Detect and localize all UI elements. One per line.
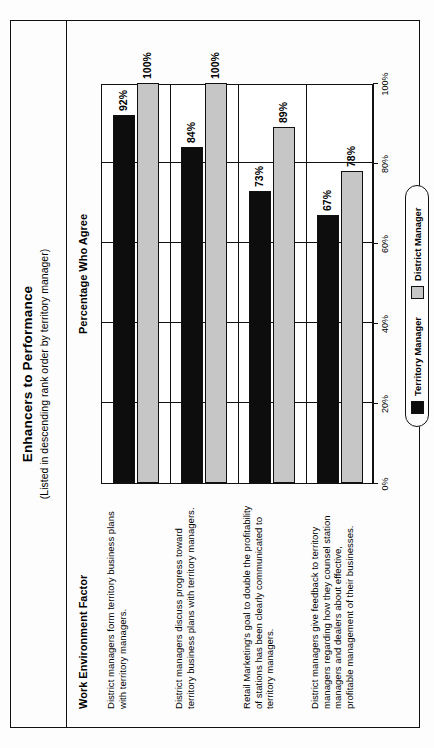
legend-swatch-icon bbox=[411, 401, 424, 414]
category-label-column: District managers form territory busines… bbox=[97, 497, 419, 709]
rotated-artwork: Enhancers to Performance (Listed in desc… bbox=[0, 0, 434, 748]
bar-value-label: 78% bbox=[346, 146, 357, 167]
bar-value-label: 100% bbox=[210, 52, 221, 79]
axis-tick-label: 100% bbox=[380, 72, 390, 95]
page-title: Enhancers to Performance bbox=[19, 21, 36, 727]
axis-tick bbox=[373, 243, 378, 244]
axis-tick-label: 40% bbox=[380, 315, 390, 333]
axis-line bbox=[373, 84, 374, 484]
bar-value-label: 84% bbox=[186, 122, 197, 143]
legend-item: District Manager bbox=[411, 208, 424, 299]
axis-tick-label: 80% bbox=[380, 155, 390, 173]
page-subtitle: (Listed in descending rank order by terr… bbox=[37, 21, 52, 727]
axis-tick-label: 60% bbox=[380, 235, 390, 253]
title-block: Enhancers to Performance (Listed in desc… bbox=[11, 21, 67, 727]
legend-label: District Manager bbox=[412, 208, 423, 281]
axis-tick-label: 20% bbox=[380, 395, 390, 413]
category-label: Retail Marketing's goal to double the pr… bbox=[241, 504, 276, 709]
legend-label: Territory Manager bbox=[412, 317, 423, 396]
axis-tick bbox=[373, 403, 378, 404]
chart-card: Enhancers to Performance (Listed in desc… bbox=[10, 20, 420, 728]
category-label: District managers give feedback to terri… bbox=[309, 504, 355, 709]
bar-district-manager bbox=[341, 171, 363, 483]
plot-area: 92%100%84%100%73%89%67%78% bbox=[101, 84, 373, 484]
bar-territory-manager bbox=[181, 147, 203, 483]
axis-tick-label: 0% bbox=[380, 477, 390, 490]
bar-value-label: 100% bbox=[142, 52, 153, 79]
chart-legend: Territory ManagerDistrict Manager bbox=[405, 185, 429, 427]
bar-value-label: 92% bbox=[118, 90, 129, 111]
bar-district-manager bbox=[137, 83, 159, 483]
chart-page: Enhancers to Performance (Listed in desc… bbox=[0, 0, 434, 748]
group-separator bbox=[238, 85, 239, 483]
category-label: District managers form territory busines… bbox=[105, 504, 128, 709]
x-axis: 0%20%40%60%80%100% bbox=[373, 84, 401, 484]
bar-value-label: 89% bbox=[278, 102, 289, 123]
axis-tick bbox=[373, 323, 378, 324]
legend-swatch-icon bbox=[411, 286, 424, 299]
chart-body: District managers form territory busines… bbox=[97, 21, 419, 727]
bar-territory-manager bbox=[317, 215, 339, 483]
legend-item: Territory Manager bbox=[411, 317, 424, 414]
axis-tick bbox=[373, 163, 378, 164]
bar-territory-manager bbox=[249, 191, 271, 483]
column-header-factor: Work Environment Factor bbox=[77, 494, 89, 709]
bar-district-manager bbox=[205, 83, 227, 483]
group-separator bbox=[170, 85, 171, 483]
category-label: District managers discuss progress towar… bbox=[173, 504, 196, 709]
bar-value-label: 67% bbox=[322, 190, 333, 211]
axis-tick bbox=[373, 83, 378, 84]
bar-district-manager bbox=[273, 127, 295, 483]
bar-value-label: 73% bbox=[254, 166, 265, 187]
column-header-percentage: Percentage Who Agree bbox=[77, 64, 89, 484]
group-separator bbox=[306, 85, 307, 483]
axis-tick bbox=[373, 483, 378, 484]
bar-territory-manager bbox=[113, 115, 135, 483]
